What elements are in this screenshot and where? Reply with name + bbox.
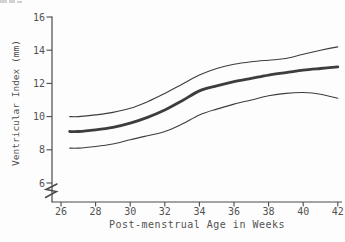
x-tick-label: 28 [90,206,102,217]
y-tick-label: 6 [39,178,45,189]
y-axis: 6810121416 [33,12,57,203]
x-tick-label: 40 [297,206,309,217]
x-tick-label: 38 [263,206,275,217]
x-tick-label: 36 [228,206,240,217]
y-axis-break [46,184,58,198]
y-tick-label: 10 [33,111,45,122]
mean-curve [70,67,338,132]
x-axis: 262830323436384042 [51,202,343,217]
y-axis-label: Ventricular Index (mm) [10,0,22,211]
lower-limit-curve [70,92,338,148]
y-tick-label: 16 [33,12,45,23]
curve-series [70,47,338,148]
x-tick-label: 32 [159,206,171,217]
y-tick-label: 8 [39,144,45,155]
y-tick-label: 14 [33,45,45,56]
x-axis-label: Post-menstrual Age in Weeks [52,219,342,230]
x-tick-label: 26 [55,206,67,217]
ventricular-index-chart: 6810121416 262830323436384042 [0,0,345,242]
upper-limit-curve [70,47,338,117]
x-tick-label: 42 [332,206,344,217]
figure-page: 6810121416 262830323436384042 Ventricula… [0,0,345,242]
x-tick-label: 34 [193,206,205,217]
x-tick-label: 30 [124,206,136,217]
y-tick-label: 12 [33,78,45,89]
